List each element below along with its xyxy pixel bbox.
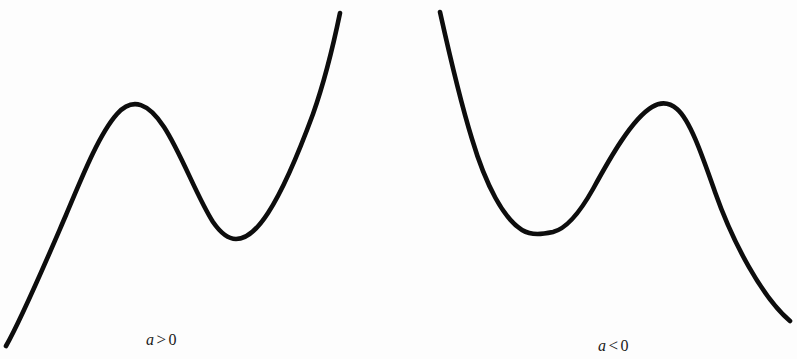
caption-variable-right: a [598, 337, 607, 354]
caption-relation-right: < [607, 336, 621, 355]
caption-a-negative: a<0 [598, 337, 629, 354]
caption-value-right: 0 [621, 337, 630, 354]
cubic-curves-figure: a>0 a<0 [0, 0, 797, 359]
caption-variable-left: a [146, 331, 155, 348]
curves-canvas [0, 0, 797, 359]
caption-value-left: 0 [169, 331, 178, 348]
caption-a-positive: a>0 [146, 331, 177, 348]
cubic-curve-a-positive [6, 13, 340, 346]
cubic-curve-a-negative [440, 12, 790, 321]
caption-relation-left: > [155, 330, 169, 349]
